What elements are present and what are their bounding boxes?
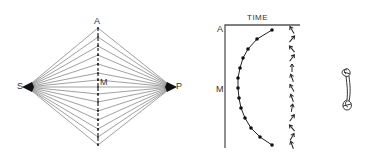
trajectory-points: [236, 28, 274, 147]
trajectory-curve: [238, 30, 272, 145]
arrow-column: [288, 26, 296, 150]
label-source-s: S: [17, 82, 23, 91]
label-middle-m: M: [100, 78, 108, 87]
label-right-a: A: [217, 25, 223, 34]
label-top-a: A: [94, 17, 100, 26]
label-right-m: M: [216, 85, 224, 94]
diagram-canvas: [0, 0, 376, 156]
time-axes: [225, 25, 300, 148]
time-axis-label: TIME: [247, 14, 268, 22]
source-point-icon: [22, 82, 34, 92]
label-target-p: P: [176, 82, 182, 91]
figure-eight-icon: [342, 69, 351, 110]
